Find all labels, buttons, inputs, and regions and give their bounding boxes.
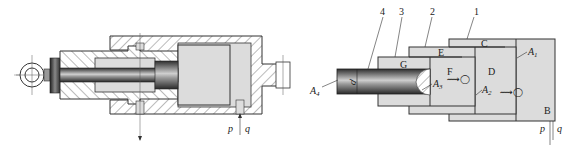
- chamber-g: G: [400, 59, 407, 70]
- chamber-e: E: [438, 47, 444, 58]
- svg-text:A4: A4: [309, 85, 320, 98]
- pressure-label-right: p: [539, 123, 545, 134]
- chamber-f: F: [447, 66, 453, 77]
- rod-head: [155, 61, 178, 89]
- part-number-2: 2: [430, 6, 435, 17]
- part-number-3: 3: [399, 6, 404, 17]
- sectional-view: p q: [14, 33, 290, 141]
- outflow-arrow-icon: [138, 136, 142, 141]
- diagram-canvas: p q ⟿◯ ⟿◯ 4 3 2 1 C E G F: [0, 0, 572, 151]
- area-label-a4: A4: [309, 80, 338, 98]
- rod-collar: [50, 58, 60, 93]
- rod-eye: [16, 55, 50, 95]
- chamber-b: B: [544, 105, 551, 116]
- main-piston: [178, 45, 230, 105]
- part-number-1: 1: [474, 6, 479, 17]
- flow-label-right: q: [557, 123, 562, 134]
- inlet-port: [236, 100, 244, 114]
- schematic-view: ⟿◯ ⟿◯ 4 3 2 1 C E G F D B A1 A2 A3: [309, 6, 562, 145]
- pressure-label-left: p: [227, 123, 233, 134]
- part-number-4: 4: [380, 6, 385, 17]
- check-valve-icon: ⟿◯: [500, 87, 523, 98]
- flow-label-left: q: [245, 123, 250, 134]
- chamber-d: D: [488, 66, 495, 77]
- chamber-c: C: [481, 38, 488, 49]
